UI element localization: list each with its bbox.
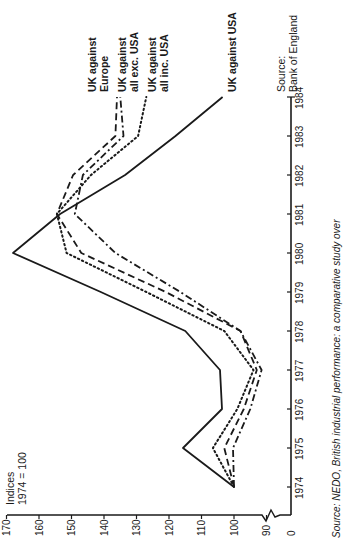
value-axis: 170160150140130120110100900 Indices 1974… [1, 452, 297, 536]
year-tick-label: 1976 [294, 398, 305, 421]
axis-title-line-2: 1974 = 100 [16, 452, 28, 505]
legend: UK againstEuropeUK againstall exc. USAUK… [86, 12, 238, 92]
value-tick-label: 120 [164, 519, 175, 536]
year-tick-label: 1974 [294, 476, 305, 499]
series-line-uk-against-usa [13, 97, 234, 487]
year-tick-label: 1980 [294, 242, 305, 265]
value-tick-label: 90 [261, 524, 272, 536]
value-tick-label: 140 [99, 519, 110, 536]
series-line-uk-against-europe [57, 97, 257, 487]
series-lines [13, 97, 262, 487]
source-label-line-2: Bank of England [287, 15, 299, 92]
value-tick-label: 0 [286, 530, 297, 536]
figure-caption: Source: NEDO, British industrial perform… [331, 219, 342, 538]
source-label-line-1: Source: [275, 56, 287, 92]
legend-label: UK against [116, 37, 128, 92]
value-tick-label: 150 [66, 519, 77, 536]
value-tick-label: 160 [34, 519, 45, 536]
value-tick-label: 100 [229, 519, 240, 536]
source-annotation: Source: Bank of England [275, 15, 299, 92]
value-tick-label: 130 [131, 519, 142, 536]
value-tick-label: 110 [196, 520, 207, 536]
year-tick-label: 1982 [294, 164, 305, 187]
series-line-uk-against-all-inc-usa [57, 97, 254, 487]
value-tick-label: 170 [1, 519, 12, 536]
axis-break-icon [254, 510, 291, 521]
legend-label: all inc. USA [158, 34, 170, 92]
year-axis: 1974197519761977197819791980198119821983… [287, 86, 305, 515]
year-tick-label: 1977 [294, 359, 305, 382]
legend-label: UK against [146, 37, 158, 92]
legend-label: UK against [86, 37, 98, 92]
year-tick-label: 1975 [294, 437, 305, 460]
line-chart: 170160150140130120110100900 Indices 1974… [0, 0, 344, 543]
legend-label: UK against USA [226, 12, 238, 92]
axis-title-line-1: Indices [4, 472, 16, 505]
year-tick-label: 1979 [294, 281, 305, 304]
legend-label: Europe [98, 56, 110, 92]
value-axis-title: Indices 1974 = 100 [4, 452, 28, 505]
year-tick-label: 1981 [294, 203, 305, 226]
year-tick-label: 1978 [294, 320, 305, 343]
legend-label: all exc. USA [128, 31, 140, 92]
year-tick-label: 1983 [294, 125, 305, 148]
